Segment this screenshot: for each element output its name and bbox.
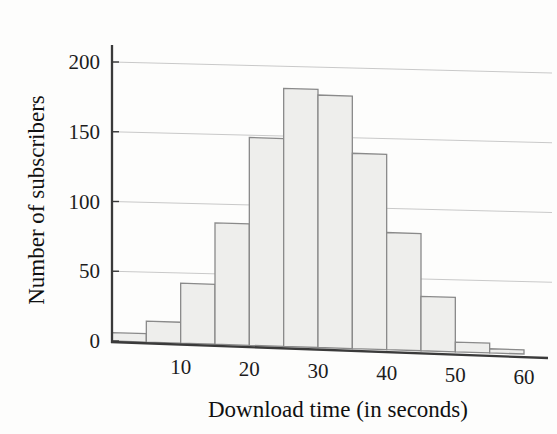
histogram-bar bbox=[318, 95, 352, 349]
y-axis-title: Number of subscribers bbox=[24, 95, 49, 305]
histogram-bar bbox=[146, 321, 180, 343]
histogram-bar bbox=[249, 137, 283, 346]
x-tick-label: 10 bbox=[170, 355, 191, 379]
x-tick-label: 30 bbox=[308, 359, 329, 383]
histogram-bar bbox=[490, 349, 524, 354]
bars-group bbox=[112, 88, 524, 354]
histogram-bar bbox=[284, 88, 318, 347]
y-tick-label: 50 bbox=[79, 259, 100, 283]
x-tick-label: 20 bbox=[239, 357, 260, 381]
gridline-200 bbox=[112, 62, 552, 73]
histogram-bar bbox=[455, 342, 489, 353]
y-tick-label: 100 bbox=[69, 190, 101, 214]
histogram-figure: 050100150200 102030405060 Download time … bbox=[0, 0, 557, 434]
histogram-bar bbox=[352, 153, 386, 349]
histogram-bar bbox=[421, 296, 455, 351]
histogram-bar bbox=[181, 283, 215, 344]
x-axis-title: Download time (in seconds) bbox=[208, 397, 468, 422]
y-tick-label: 200 bbox=[69, 50, 101, 74]
y-tick-label: 0 bbox=[90, 329, 101, 353]
x-tick-label: 60 bbox=[514, 365, 535, 389]
chart-canvas: 050100150200 102030405060 Download time … bbox=[0, 0, 557, 434]
histogram-bar bbox=[387, 232, 421, 350]
x-tick-label: 50 bbox=[445, 363, 466, 387]
x-tick-label: 40 bbox=[376, 361, 397, 385]
histogram-bar bbox=[215, 223, 249, 345]
y-tick-label: 150 bbox=[69, 120, 101, 144]
x-tick-labels-group: 102030405060 bbox=[170, 355, 534, 389]
